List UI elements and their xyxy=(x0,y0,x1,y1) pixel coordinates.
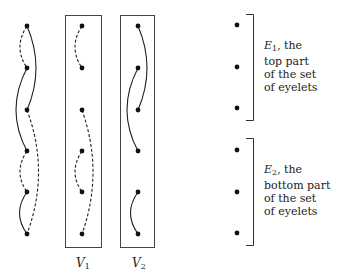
arc-4-5-dashed xyxy=(75,151,82,192)
eyelet-dot xyxy=(136,66,141,71)
v2-label-main: V xyxy=(132,256,141,270)
eyelet-dot xyxy=(136,190,141,195)
e2-line3: of the set xyxy=(264,192,330,205)
eyelet-dot xyxy=(136,24,141,29)
v2-label: V2 xyxy=(132,257,146,273)
eyelet-dot xyxy=(235,65,240,70)
arc-1-2-dashed xyxy=(20,26,27,68)
e1-line3: of the set xyxy=(264,68,318,81)
eyelet-dot xyxy=(136,149,141,154)
v1-dots xyxy=(80,24,85,237)
e2-symbol: E xyxy=(264,163,272,176)
eyelet-dot xyxy=(25,149,30,154)
eyelet-dot xyxy=(235,190,240,195)
eyelet-dot xyxy=(25,108,30,113)
v1-label: V1 xyxy=(76,257,90,273)
v2-label-sub: 2 xyxy=(141,262,146,271)
e1-text1: , the xyxy=(277,39,302,52)
full-eyelet-column xyxy=(16,26,39,234)
e1-line1: E1, the xyxy=(264,39,318,55)
e2-line4: of eyelets xyxy=(264,205,330,218)
e1-caption: E1, the top part of the set of eyelets xyxy=(264,39,318,94)
e1-bracket xyxy=(246,15,254,121)
e1-line2: top part xyxy=(264,55,318,68)
arc-3-6-dashed xyxy=(82,110,93,234)
arc-4-5-dashed xyxy=(20,151,27,192)
eyelet-dot xyxy=(80,66,85,71)
eyelet-dot xyxy=(80,190,85,195)
arc-3-6-dashed xyxy=(27,110,39,234)
v1-label-sub: 1 xyxy=(85,262,90,271)
eyelet-dot xyxy=(235,148,240,153)
e2-bracket xyxy=(246,139,254,246)
eyelet-dot xyxy=(235,106,240,111)
eyelet-dot xyxy=(25,190,30,195)
arc-5-6-solid xyxy=(20,192,28,234)
full-column-dots xyxy=(25,24,30,237)
eyelet-dot xyxy=(80,149,85,154)
eyelet-dot xyxy=(235,23,240,28)
eyelet-dot xyxy=(136,232,141,237)
e1-symbol: E xyxy=(264,39,272,52)
v2-dots xyxy=(136,24,141,237)
v2-box xyxy=(121,16,155,248)
e2-line1: E2, the xyxy=(264,163,330,179)
eyelet-dot xyxy=(136,108,141,113)
eyelet-dot xyxy=(80,232,85,237)
eyelet-dot xyxy=(235,231,240,236)
arc-5-6-solid xyxy=(131,192,139,234)
eyelet-dot xyxy=(25,24,30,29)
v1-box xyxy=(66,16,102,248)
e2-text1: , the xyxy=(277,163,302,176)
eyelet-dot xyxy=(80,24,85,29)
v1-label-main: V xyxy=(76,256,85,270)
eyelet-dot xyxy=(25,232,30,237)
eyelet-dot xyxy=(80,108,85,113)
v2-arcs xyxy=(127,26,147,234)
eyelet-set-dots xyxy=(235,23,240,236)
e2-line2: bottom part xyxy=(264,179,330,192)
eyelet-dot xyxy=(25,66,30,71)
e1-line4: of eyelets xyxy=(264,81,318,94)
e2-caption: E2, the bottom part of the set of eyelet… xyxy=(264,163,330,218)
v1-arcs xyxy=(75,26,93,234)
arc-1-2-dashed xyxy=(75,26,82,68)
